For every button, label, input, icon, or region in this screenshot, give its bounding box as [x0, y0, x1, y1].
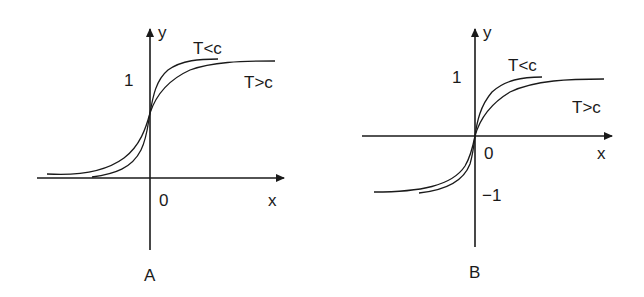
panel-b-y-tick-minus-1: −1 [482, 186, 501, 205]
panel-b-x-label: x [597, 144, 606, 163]
panel-a-curve-label-t-greater-c: T>c [244, 73, 273, 92]
panel-a-curve-t-less-c [92, 59, 218, 177]
panel-b-origin-label: 0 [484, 144, 493, 163]
panel-b-curve-label-t-less-c: T<c [508, 56, 537, 75]
panel-a-x-label: x [268, 191, 277, 210]
panel-b: y T<c T>c 1 0 x −1 B [362, 23, 612, 282]
panel-b-caption: B [469, 263, 480, 282]
panel-b-y-label: y [483, 23, 492, 42]
panel-a-curve-label-t-less-c: T<c [193, 39, 222, 58]
panel-b-curve-t-less-c [419, 77, 542, 193]
panel-a-caption: A [144, 266, 156, 285]
panel-b-y-tick-1: 1 [452, 68, 461, 87]
panel-a: y T<c T>c 1 0 x A [37, 23, 284, 285]
sigmoid-diagram: y T<c T>c 1 0 x A y T<c T>c 1 0 x −1 B [0, 0, 644, 297]
panel-a-origin-label: 0 [159, 191, 168, 210]
panel-a-y-tick-1: 1 [124, 71, 133, 90]
panel-b-curve-label-t-greater-c: T>c [572, 98, 601, 117]
panel-a-y-label: y [158, 23, 167, 42]
